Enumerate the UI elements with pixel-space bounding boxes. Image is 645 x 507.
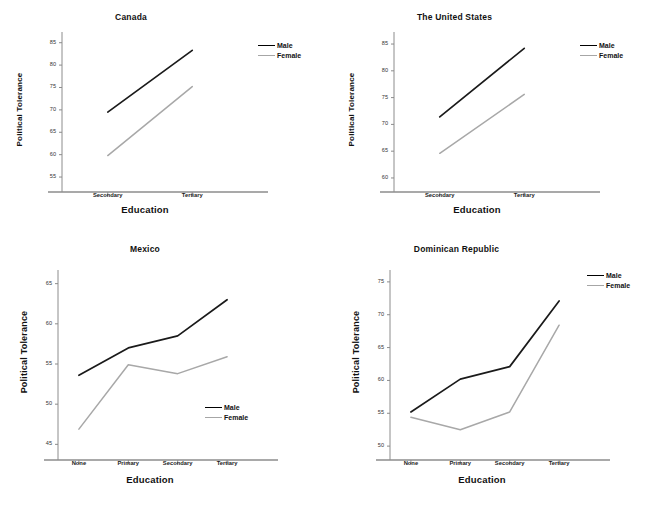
y-tick-label: 70 bbox=[28, 106, 56, 112]
legend-united-states: Male Female bbox=[580, 40, 623, 60]
y-tick-label: 50 bbox=[24, 400, 52, 406]
x-tick-label: Tertiary bbox=[494, 192, 554, 198]
legend-item-male: Male bbox=[205, 402, 248, 412]
panel-dominican-republic: Dominican Republic Political Tolerance E… bbox=[322, 232, 645, 507]
y-tick-label: 80 bbox=[28, 61, 56, 67]
x-tick-label: Secondary bbox=[78, 192, 138, 198]
series-line-male bbox=[411, 301, 559, 412]
legend-item-female: Female bbox=[205, 412, 248, 422]
series-line-male bbox=[108, 50, 192, 112]
y-tick-label: 75 bbox=[28, 83, 56, 89]
legend-label-male: Male bbox=[277, 42, 293, 49]
panel-mexico: Mexico Political Tolerance Education Mal… bbox=[0, 232, 322, 507]
y-tick-label: 70 bbox=[356, 311, 384, 317]
x-tick-label: Tertiary bbox=[529, 460, 589, 466]
legend-label-female: Female bbox=[599, 52, 623, 59]
legend-item-female: Female bbox=[587, 280, 630, 290]
legend-label-male: Male bbox=[606, 272, 622, 279]
legend-label-female: Female bbox=[606, 282, 630, 289]
y-tick-label: 70 bbox=[360, 120, 388, 126]
legend-item-male: Male bbox=[258, 40, 301, 50]
legend-label-male: Male bbox=[224, 404, 240, 411]
x-tick-label: Secondary bbox=[410, 192, 470, 198]
series-line-female bbox=[440, 94, 524, 153]
legend-item-male: Male bbox=[587, 270, 630, 280]
legend-line-male-icon bbox=[587, 275, 604, 276]
legend-line-female-icon bbox=[587, 285, 604, 286]
legend-line-male-icon bbox=[258, 45, 275, 46]
y-tick-label: 85 bbox=[28, 39, 56, 45]
x-tick-label: Tertiary bbox=[197, 460, 257, 466]
legend-label-male: Male bbox=[599, 42, 615, 49]
panel-canada: Canada Political Tolerance Education Mal… bbox=[0, 0, 322, 232]
legend-line-female-icon bbox=[580, 55, 597, 56]
series-line-female bbox=[411, 325, 559, 429]
figure-panel-grid: Canada Political Tolerance Education Mal… bbox=[0, 0, 645, 507]
y-tick-label: 65 bbox=[360, 147, 388, 153]
legend-line-female-icon bbox=[205, 417, 222, 418]
panel-united-states: The United States Political Tolerance Ed… bbox=[322, 0, 645, 232]
x-tick-label: Tertiary bbox=[162, 192, 222, 198]
y-tick-label: 65 bbox=[28, 128, 56, 134]
y-tick-label: 55 bbox=[356, 409, 384, 415]
plot-united-states bbox=[322, 0, 645, 232]
legend-line-male-icon bbox=[205, 407, 222, 408]
y-tick-label: 65 bbox=[356, 344, 384, 350]
series-line-male bbox=[440, 48, 524, 117]
legend-mexico: Male Female bbox=[205, 402, 248, 422]
legend-item-male: Male bbox=[580, 40, 623, 50]
plot-canada bbox=[0, 0, 322, 232]
y-tick-label: 55 bbox=[28, 173, 56, 179]
y-tick-label: 60 bbox=[24, 320, 52, 326]
legend-label-female: Female bbox=[224, 414, 248, 421]
y-tick-label: 55 bbox=[24, 360, 52, 366]
y-tick-label: 45 bbox=[24, 440, 52, 446]
legend-dominican-republic: Male Female bbox=[587, 270, 630, 290]
legend-canada: Male Female bbox=[258, 40, 301, 60]
legend-line-male-icon bbox=[580, 45, 597, 46]
y-tick-label: 75 bbox=[360, 94, 388, 100]
legend-line-female-icon bbox=[258, 55, 275, 56]
y-tick-label: 85 bbox=[360, 40, 388, 46]
legend-label-female: Female bbox=[277, 52, 301, 59]
y-tick-label: 60 bbox=[356, 376, 384, 382]
y-tick-label: 80 bbox=[360, 67, 388, 73]
y-tick-label: 60 bbox=[360, 174, 388, 180]
y-tick-label: 65 bbox=[24, 280, 52, 286]
legend-item-female: Female bbox=[580, 50, 623, 60]
legend-item-female: Female bbox=[258, 50, 301, 60]
y-tick-label: 75 bbox=[356, 278, 384, 284]
series-line-female bbox=[108, 87, 192, 156]
y-tick-label: 50 bbox=[356, 442, 384, 448]
y-tick-label: 60 bbox=[28, 151, 56, 157]
